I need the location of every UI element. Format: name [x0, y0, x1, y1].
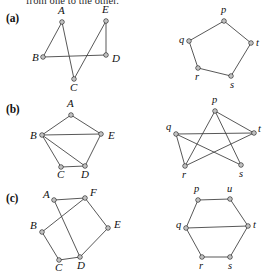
graph-vertex-label-E: E: [113, 218, 121, 230]
graph-edge-u-t: [230, 199, 248, 226]
graph-vertex-center-u: [229, 198, 230, 199]
graph-vertex-label-t: t: [253, 219, 257, 230]
graph-edge-C-D: [59, 257, 80, 260]
graph-vertex-center-C: [60, 166, 61, 167]
graph-figure-canvas: AEBDCpqtrsABECDpqtrsAFBECDpuqtrs: [0, 0, 265, 274]
graph-edge-B-D: [42, 135, 85, 166]
graph-edge-r-t: [185, 133, 254, 166]
graph-vertex-r: [183, 164, 187, 168]
graph-c-right: puqtrs: [176, 183, 257, 271]
graph-vertex-center-A: [53, 199, 54, 200]
graph-vertex-label-s: s: [230, 79, 234, 90]
graph-vertex-label-p: p: [193, 183, 199, 194]
graph-edge-B-D: [43, 55, 106, 57]
graph-vertex-center-q: [185, 227, 186, 228]
graph-vertex-center-D: [84, 165, 85, 166]
graph-b-left: ABECD: [30, 97, 115, 180]
graph-vertex-center-B: [41, 231, 42, 232]
graph-vertex-center-D: [105, 54, 106, 55]
graph-vertex-center-C: [58, 259, 59, 260]
graph-edge-p-q: [189, 21, 224, 41]
graph-vertex-B: [40, 230, 44, 234]
graph-vertex-C: [57, 258, 61, 262]
graph-vertex-center-s: [229, 256, 230, 257]
graph-vertex-center-q: [188, 40, 189, 41]
graph-vertex-label-q: q: [176, 219, 181, 230]
graph-vertex-center-t: [247, 225, 248, 226]
graph-vertex-F: [83, 196, 87, 200]
graph-vertex-center-B: [41, 134, 42, 135]
graph-vertex-B: [40, 133, 44, 137]
graph-vertex-E: [106, 226, 110, 230]
graph-vertex-E: [104, 19, 108, 23]
figure-page: from one to the other. (a) (b) (c) AEBDC…: [0, 0, 265, 274]
graph-edge-q-r: [189, 41, 198, 68]
graph-vertex-label-D: D: [111, 52, 120, 64]
graph-edge-t-p: [224, 21, 251, 43]
graph-edge-B-C: [42, 135, 61, 167]
graph-vertex-center-t: [253, 132, 254, 133]
graph-vertex-label-A: A: [66, 97, 74, 109]
graph-vertex-label-u: u: [227, 183, 232, 194]
graph-vertex-t: [249, 41, 253, 45]
graph-edge-q-t: [176, 133, 254, 134]
panel-label-c: (c): [6, 192, 18, 204]
graph-vertex-center-p: [223, 20, 224, 21]
graph-edge-p-t: [215, 111, 254, 133]
graph-vertex-label-q: q: [179, 34, 184, 45]
graph-vertex-A: [60, 20, 64, 24]
graph-vertex-center-r: [184, 165, 185, 166]
panel-label-b: (b): [6, 103, 19, 115]
graph-vertex-label-B: B: [30, 219, 37, 231]
clipped-body-text: from one to the other.: [26, 0, 226, 7]
graph-vertex-center-D: [79, 256, 80, 257]
graph-b-right: pqtrs: [166, 94, 262, 180]
graph-vertex-center-E: [100, 133, 101, 134]
graph-vertex-center-E: [107, 227, 108, 228]
graph-vertex-label-E: E: [107, 129, 115, 141]
graph-edge-s-t: [230, 226, 248, 257]
graph-vertex-p: [213, 109, 217, 113]
graph-vertex-u: [228, 197, 232, 201]
panel-label-a: (a): [6, 12, 19, 24]
graph-vertex-label-C: C: [70, 81, 78, 93]
graph-edge-B-E: [42, 134, 101, 135]
graph-vertex-center-r: [201, 256, 202, 257]
graph-vertex-label-D: D: [80, 168, 89, 180]
graph-vertex-E: [99, 132, 103, 136]
graph-vertex-center-C: [73, 78, 74, 79]
graph-edge-q-t: [186, 226, 248, 228]
graph-vertex-s: [239, 163, 243, 167]
graph-vertex-s: [228, 255, 232, 259]
graph-a-right: pqtrs: [179, 4, 260, 90]
graph-edge-A-B: [43, 22, 62, 57]
graph-vertex-label-D: D: [76, 259, 85, 271]
graph-vertex-D: [104, 53, 108, 57]
graph-vertex-label-p: p: [211, 94, 217, 105]
graph-vertex-t: [252, 131, 256, 135]
graph-a-left: AEBDC: [32, 3, 120, 93]
graph-edge-p-u: [198, 199, 230, 200]
graph-edge-A-C: [62, 22, 74, 79]
graph-vertex-center-B: [42, 56, 43, 57]
graph-edge-C-E: [74, 21, 106, 79]
graph-edge-A-F: [54, 198, 85, 200]
graph-edge-p-s: [215, 111, 241, 165]
graph-vertex-C: [59, 165, 63, 169]
graph-edge-p-q: [186, 200, 198, 228]
graph-vertex-label-s: s: [228, 260, 232, 271]
graph-vertex-center-A: [70, 114, 71, 115]
graph-vertex-center-p: [197, 199, 198, 200]
graph-vertex-q: [187, 39, 191, 43]
graph-vertex-label-t: t: [258, 123, 262, 134]
graph-vertex-label-q: q: [166, 121, 171, 132]
graph-edge-r-s: [198, 68, 231, 76]
graph-edge-A-B: [42, 115, 71, 135]
graph-vertex-label-r: r: [199, 260, 204, 271]
graph-vertex-A: [69, 113, 73, 117]
graph-edge-q-r: [176, 134, 185, 166]
graph-vertex-q: [184, 226, 188, 230]
graph-vertex-center-s: [240, 164, 241, 165]
graph-vertex-label-A: A: [42, 188, 50, 200]
graph-vertex-t: [246, 224, 250, 228]
